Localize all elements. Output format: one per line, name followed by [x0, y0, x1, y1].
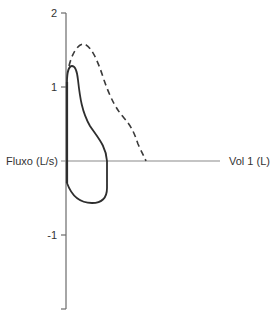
y-axis-label: Fluxo (L/s)	[6, 155, 58, 167]
solid-flow-loop	[67, 66, 107, 203]
y-tick-label-1: 1	[51, 81, 57, 93]
x-axis-label: Vol 1 (L)	[229, 155, 270, 167]
y-tick-label-minus-1: -1	[47, 229, 57, 241]
flow-volume-chart: 2 1 -1 Fluxo (L/s) Vol 1 (L)	[0, 0, 277, 316]
y-tick-label-2: 2	[51, 7, 57, 19]
